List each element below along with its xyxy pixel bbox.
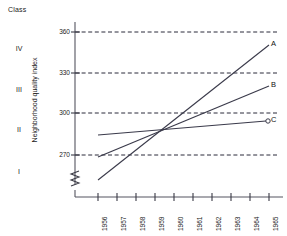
- x-tick-label-1960: 1960: [177, 217, 184, 231]
- x-tick-label-1963: 1963: [234, 217, 241, 231]
- chart-figure: Class IV III II I Neighborhood quality i…: [0, 0, 287, 236]
- x-tick-label-1964: 1964: [253, 217, 260, 231]
- x-tick-label-1956: 1956: [101, 217, 108, 231]
- series-c-endpoint-marker: [266, 119, 270, 123]
- x-tick-label-1957: 1957: [120, 217, 127, 231]
- plot-area: [0, 0, 287, 236]
- x-tick-label-1959: 1959: [158, 217, 165, 231]
- x-tick-label-1965: 1965: [272, 217, 279, 231]
- gridlines: [75, 32, 279, 155]
- x-tick-label-1962: 1962: [215, 217, 222, 231]
- series-line-c: [98, 121, 266, 135]
- series-label-c: C: [271, 115, 276, 124]
- series-label-a: A: [271, 39, 276, 48]
- x-tick-label-1958: 1958: [139, 217, 146, 231]
- series-label-b: B: [271, 80, 276, 89]
- series-line-b: [98, 86, 269, 157]
- x-tick-label-1961: 1961: [196, 217, 203, 231]
